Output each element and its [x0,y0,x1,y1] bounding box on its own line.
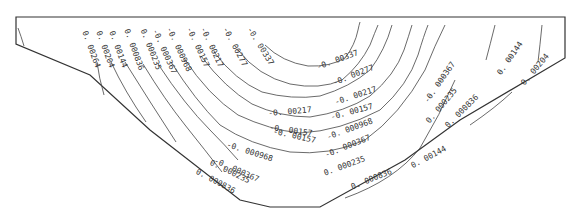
contour-line [18,28,24,46]
contour-line [486,25,495,60]
contour-diagram: 0. 002640. 002040. 001440. 0008360. 0002… [0,0,578,221]
contour-line [111,62,146,122]
